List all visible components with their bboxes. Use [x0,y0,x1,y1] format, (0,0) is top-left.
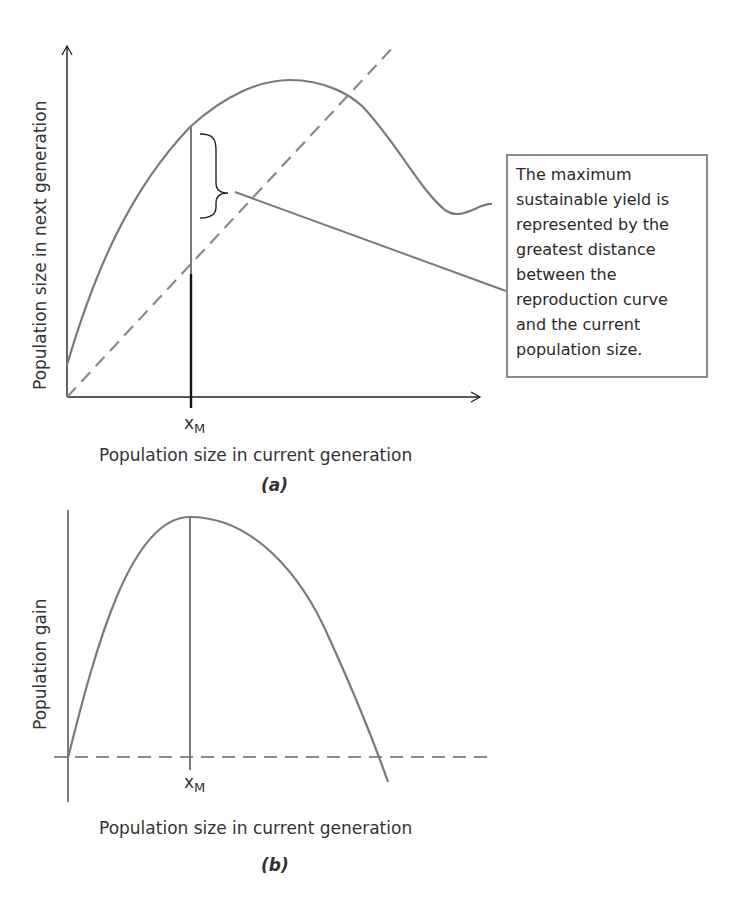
panel-a-xm-label: xM [184,413,205,436]
panel-a-xm-main: x [184,413,194,433]
panel-b-xm-label: xM [184,772,205,795]
panel-a-reproduction-curve [67,80,492,365]
note-line: and the current [516,312,698,337]
panel-a-x-axis-label: Population size in current generation [99,445,412,465]
panel-b-gain-curve [68,517,388,782]
panel-a-brace [200,134,228,218]
note-line: between the [516,262,698,287]
note-line: represented by the [516,212,698,237]
panel-a-y-axis-label: Population size in next generation [30,100,50,390]
note-line: The maximum [516,162,698,187]
panel-b-xm-main: x [184,772,194,792]
panel-a-pointer-line [235,192,506,291]
panel-a-plot [67,44,506,408]
note-line: sustainable yield is [516,187,698,212]
panel-b-plot [54,510,495,802]
note-line: reproduction curve [516,287,698,312]
panel-b-xm-sub: M [194,780,205,795]
panel-b-x-axis-label: Population size in current generation [99,818,412,838]
note-line: population size. [516,337,698,362]
panel-a-xm-sub: M [194,421,205,436]
panel-a-tag: (a) [261,475,288,495]
panel-b-tag: (b) [261,855,289,875]
msy-annotation-box: The maximum sustainable yield is represe… [506,154,708,378]
note-line: greatest distance [516,237,698,262]
panel-b-y-axis-label: Population gain [30,599,50,730]
